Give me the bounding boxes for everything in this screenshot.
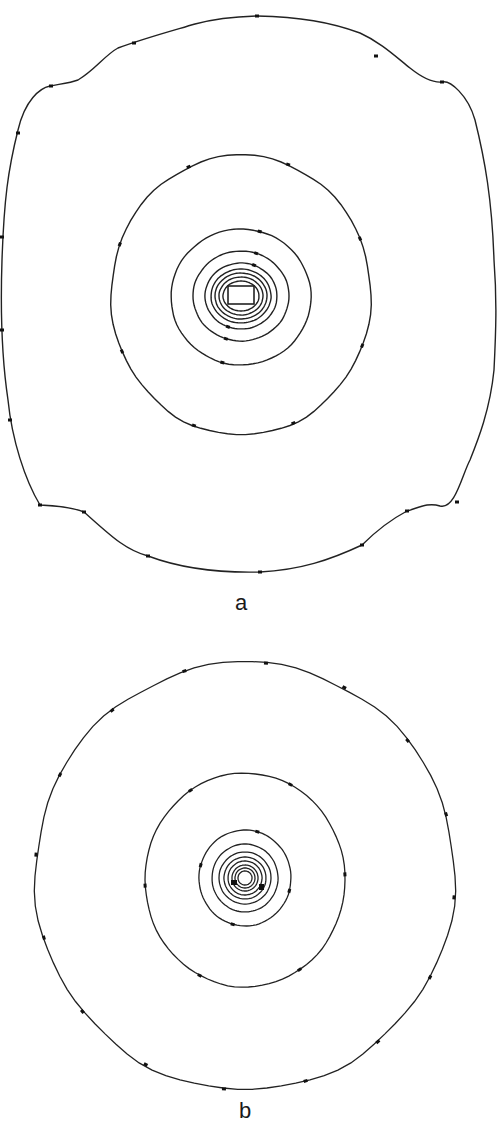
contour-label-marker bbox=[132, 42, 136, 45]
contour-label-marker bbox=[358, 236, 362, 241]
contour-label-marker bbox=[257, 230, 262, 234]
contour-label-marker bbox=[38, 504, 42, 507]
contour-label-marker bbox=[254, 251, 259, 255]
contour-ring bbox=[193, 251, 289, 341]
panel-label-a: a bbox=[221, 590, 261, 616]
contour-label-marker bbox=[42, 935, 46, 940]
contour-label-marker bbox=[360, 544, 364, 547]
contour-label-marker bbox=[455, 501, 459, 504]
contour-label-marker bbox=[80, 1009, 85, 1014]
contour-label-marker bbox=[374, 55, 378, 58]
contour-ring bbox=[145, 773, 345, 987]
outer-contour bbox=[1, 16, 496, 572]
contour-label-marker bbox=[182, 669, 187, 673]
contour-ring bbox=[238, 871, 252, 885]
contour-ring bbox=[228, 861, 262, 895]
contour-label-marker bbox=[255, 830, 260, 834]
contour-label-marker bbox=[0, 329, 4, 332]
contour-label-marker bbox=[444, 812, 448, 817]
contour-label-marker bbox=[8, 419, 12, 422]
contour-label-marker bbox=[220, 361, 225, 365]
contour-label-marker bbox=[303, 1079, 308, 1083]
contour-label-marker bbox=[452, 895, 455, 899]
contour-label-marker bbox=[375, 1039, 380, 1044]
contour-ring bbox=[219, 277, 263, 315]
panel-b-contours bbox=[34, 661, 455, 1090]
contour-label-marker bbox=[258, 571, 262, 574]
contour-label-marker bbox=[231, 880, 237, 885]
contour-label-marker bbox=[343, 872, 346, 876]
contour-label-marker bbox=[34, 852, 37, 856]
contour-label-marker bbox=[49, 85, 53, 88]
contour-label-marker bbox=[255, 15, 259, 18]
contour-label-marker bbox=[230, 922, 235, 926]
contour-label-marker bbox=[264, 661, 268, 664]
contour-label-marker bbox=[405, 510, 409, 513]
contour-label-marker bbox=[16, 132, 20, 135]
contour-label-marker bbox=[287, 888, 291, 893]
contour-ring bbox=[171, 229, 311, 365]
contour-ring bbox=[224, 857, 266, 899]
contour-label-marker bbox=[0, 236, 4, 239]
panel-a-contours bbox=[0, 15, 496, 574]
contour-ring bbox=[232, 865, 258, 891]
contour-ring bbox=[34, 662, 455, 1090]
panel-label-b: b bbox=[225, 1098, 265, 1124]
contour-label-marker bbox=[259, 884, 264, 890]
contour-label-marker bbox=[118, 242, 122, 247]
contour-label-marker bbox=[143, 884, 146, 888]
source-rectangle bbox=[228, 286, 254, 304]
contour-label-marker bbox=[146, 555, 150, 558]
contour-label-marker bbox=[199, 863, 203, 868]
contour-figure bbox=[0, 0, 499, 1129]
contour-label-marker bbox=[82, 511, 86, 514]
contour-label-marker bbox=[440, 81, 444, 84]
contour-label-marker bbox=[252, 263, 257, 267]
contour-ring bbox=[111, 155, 372, 435]
contour-label-marker bbox=[222, 1087, 226, 1090]
contour-label-marker bbox=[224, 337, 229, 341]
contour-ring bbox=[219, 852, 271, 904]
contour-ring bbox=[212, 844, 278, 912]
